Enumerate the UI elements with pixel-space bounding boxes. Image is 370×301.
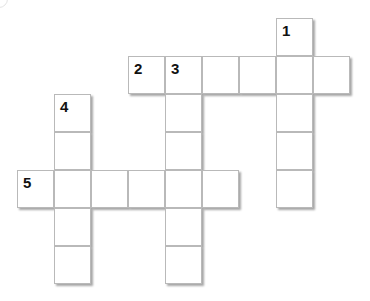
crossword-cell[interactable]: [165, 170, 202, 208]
crossword-cell[interactable]: 1: [276, 18, 313, 56]
crossword-cell[interactable]: [54, 132, 91, 170]
cell-letter-input[interactable]: [277, 19, 312, 55]
crossword-cell[interactable]: [165, 94, 202, 132]
crossword-cell[interactable]: [313, 56, 350, 94]
cell-letter-input[interactable]: [240, 57, 275, 93]
cell-letter-input[interactable]: [166, 57, 201, 93]
cell-letter-input[interactable]: [55, 95, 90, 131]
cell-letter-input[interactable]: [277, 171, 312, 207]
cell-letter-input[interactable]: [314, 57, 349, 93]
crossword-cell[interactable]: [165, 246, 202, 284]
cell-letter-input[interactable]: [55, 171, 90, 207]
cell-letter-input[interactable]: [277, 133, 312, 169]
cell-letter-input[interactable]: [55, 209, 90, 245]
crossword-cell[interactable]: 4: [54, 94, 91, 132]
cell-letter-input[interactable]: [166, 247, 201, 283]
cell-letter-input[interactable]: [203, 57, 238, 93]
cell-letter-input[interactable]: [277, 57, 312, 93]
crossword-cell[interactable]: [276, 56, 313, 94]
crossword-cell[interactable]: [54, 246, 91, 284]
crossword-cell[interactable]: [54, 170, 91, 208]
crossword-cell[interactable]: [276, 94, 313, 132]
cell-letter-input[interactable]: [129, 171, 164, 207]
crossword-cell[interactable]: [165, 132, 202, 170]
crossword-cell[interactable]: [239, 56, 276, 94]
crossword-cell[interactable]: [202, 56, 239, 94]
crossword-grid: 12345: [0, 0, 370, 301]
cell-letter-input[interactable]: [166, 171, 201, 207]
cell-letter-input[interactable]: [203, 171, 238, 207]
crossword-cell[interactable]: [202, 170, 239, 208]
crossword-cell[interactable]: 5: [17, 170, 54, 208]
crossword-cell[interactable]: [165, 208, 202, 246]
cell-letter-input[interactable]: [55, 247, 90, 283]
crossword-cell[interactable]: [276, 132, 313, 170]
crossword-cell[interactable]: 2: [128, 56, 165, 94]
cell-letter-input[interactable]: [18, 171, 53, 207]
cell-letter-input[interactable]: [166, 133, 201, 169]
crossword-cell[interactable]: [91, 170, 128, 208]
crossword-cell[interactable]: [276, 170, 313, 208]
cell-letter-input[interactable]: [129, 57, 164, 93]
cell-letter-input[interactable]: [55, 133, 90, 169]
cell-letter-input[interactable]: [92, 171, 127, 207]
cell-letter-input[interactable]: [166, 209, 201, 245]
cell-letter-input[interactable]: [166, 95, 201, 131]
crossword-cell[interactable]: [128, 170, 165, 208]
cell-letter-input[interactable]: [277, 95, 312, 131]
crossword-cell[interactable]: 3: [165, 56, 202, 94]
crossword-cell[interactable]: [54, 208, 91, 246]
